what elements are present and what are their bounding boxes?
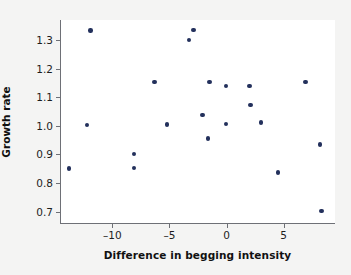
y-axis-tick-mark — [56, 97, 61, 98]
y-axis-tick-label: 1.2 — [36, 63, 53, 75]
y-axis-tick-mark — [56, 183, 61, 184]
scatter-point — [88, 28, 92, 32]
scatter-point — [206, 136, 210, 140]
scatter-point — [207, 80, 211, 84]
x-axis-tick-mark — [227, 223, 228, 228]
scatter-point — [132, 166, 136, 170]
scatter-point — [259, 120, 263, 124]
x-axis-tick-label: –10 — [103, 229, 122, 241]
scatter-point — [318, 142, 322, 146]
scatter-point — [303, 80, 307, 84]
y-axis-tick-mark — [56, 126, 61, 127]
y-axis-tick-label: 1.1 — [36, 91, 53, 103]
y-axis-tick-mark — [56, 212, 61, 213]
y-axis-tick-label: 1.3 — [36, 34, 53, 46]
scatter-point — [67, 166, 71, 170]
y-axis-tick-label: 0.7 — [36, 206, 53, 218]
x-axis-tick-label: –5 — [163, 229, 175, 241]
scatter-point — [200, 113, 204, 117]
scatter-point — [224, 122, 228, 126]
scatter-point — [165, 122, 169, 126]
scatter-point — [85, 123, 89, 127]
scatter-point — [247, 84, 251, 88]
y-axis-tick-mark — [56, 154, 61, 155]
x-axis-tick-label: 5 — [280, 229, 287, 241]
scatter-point — [132, 152, 136, 156]
x-axis-tick-label: 0 — [223, 229, 230, 241]
y-axis-title: Growth rate — [0, 86, 12, 157]
plot-area — [61, 20, 335, 223]
x-axis-tick-mark — [169, 223, 170, 228]
plot-frame: 0.70.80.91.01.11.21.3–10–505 — [60, 20, 335, 224]
scatter-plot-figure: Growth rate 0.70.80.91.01.11.21.3–10–505… — [0, 0, 351, 275]
scatter-point — [248, 103, 252, 107]
x-axis-title: Difference in begging intensity — [60, 249, 335, 261]
y-axis-tick-mark — [56, 69, 61, 70]
y-axis-tick-label: 0.9 — [36, 148, 53, 160]
scatter-point — [276, 170, 280, 174]
y-axis-tick-label: 0.8 — [36, 177, 53, 189]
y-axis-tick-label: 1.0 — [36, 120, 53, 132]
x-axis-tick-mark — [284, 223, 285, 228]
scatter-point — [187, 38, 191, 42]
scatter-point — [191, 28, 195, 32]
scatter-point — [152, 80, 156, 84]
x-axis-tick-mark — [112, 223, 113, 228]
scatter-point — [224, 84, 228, 88]
y-axis-tick-mark — [56, 40, 61, 41]
scatter-point — [319, 209, 323, 213]
